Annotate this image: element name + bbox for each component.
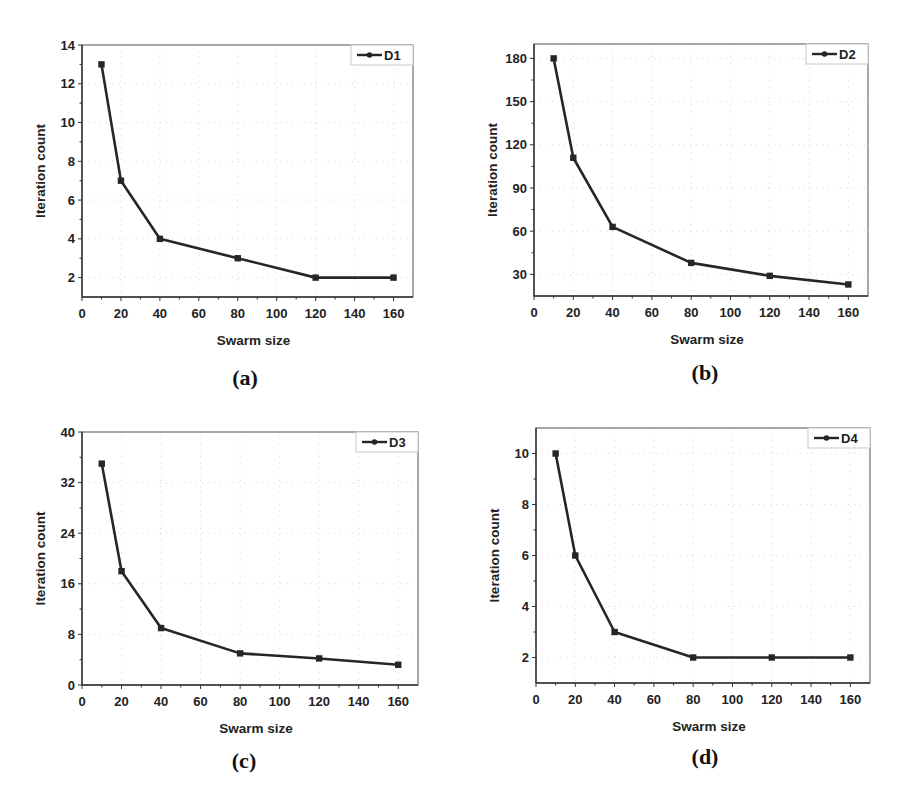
legend-marker-icon	[824, 435, 830, 441]
y-tick-label: 4	[522, 599, 530, 614]
data-point-marker	[572, 552, 578, 558]
data-point-marker	[552, 450, 558, 456]
data-point-marker	[690, 654, 696, 660]
x-tick-label: 60	[647, 692, 661, 707]
panel-caption-d: (d)	[692, 744, 719, 770]
x-tick-label: 140	[800, 692, 822, 707]
x-tick-label: 20	[568, 692, 582, 707]
x-axis-ticks: 020406080100120140160	[532, 683, 861, 707]
legend: D4	[808, 428, 870, 448]
x-tick-label: 100	[722, 692, 744, 707]
x-tick-label: 40	[607, 692, 621, 707]
data-point-marker	[611, 629, 617, 635]
y-tick-label: 10	[515, 446, 529, 461]
y-axis-ticks: 246810	[515, 446, 536, 665]
grid-lines	[536, 428, 870, 683]
plot-frame	[536, 428, 870, 683]
x-tick-label: 80	[686, 692, 700, 707]
x-tick-label: 120	[761, 692, 783, 707]
x-tick-label: 0	[532, 692, 539, 707]
data-point-marker	[769, 654, 775, 660]
x-tick-label: 160	[840, 692, 862, 707]
y-tick-label: 2	[522, 650, 529, 665]
y-tick-label: 6	[522, 548, 529, 563]
chart-d-svg: 020406080100120140160246810Swarm sizeIte…	[0, 0, 903, 804]
chart-panel-d: 020406080100120140160246810Swarm sizeIte…	[0, 0, 903, 804]
legend-label: D4	[841, 431, 858, 446]
data-markers	[552, 450, 853, 660]
y-tick-label: 8	[522, 497, 529, 512]
y-axis-title: Iteration count	[487, 508, 502, 602]
x-axis-title: Swarm size	[672, 719, 746, 734]
data-point-marker	[847, 654, 853, 660]
